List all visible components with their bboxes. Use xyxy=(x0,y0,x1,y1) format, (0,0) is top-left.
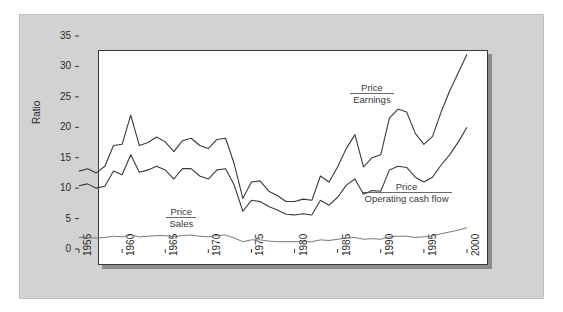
series-label-price-sales: Price Sales xyxy=(166,206,196,229)
y-tick-label: 10 xyxy=(49,183,71,193)
x-tick-label: 1995 xyxy=(428,234,438,256)
series-label-price-earnings: Price Earnings xyxy=(350,82,394,105)
y-tick-label: 20 xyxy=(49,122,71,132)
x-tick-label: 1985 xyxy=(342,234,352,256)
figure-panel xyxy=(19,14,544,299)
x-tick-label: 1975 xyxy=(255,234,265,256)
y-tick-label: 25 xyxy=(49,92,71,102)
x-tick-label: 1965 xyxy=(169,234,179,256)
series-label-denominator: Operating cash flow xyxy=(362,192,452,204)
series-label-numerator: Price xyxy=(350,82,394,93)
x-tick-label: 1970 xyxy=(212,234,222,256)
series-label-denominator: Sales xyxy=(166,217,196,229)
series-label-numerator: Price xyxy=(166,206,196,217)
y-tick-label: 35 xyxy=(49,31,71,41)
x-tick-label: 1990 xyxy=(385,234,395,256)
series-label-denominator: Earnings xyxy=(350,93,394,105)
y-tick-label: 15 xyxy=(49,153,71,163)
x-tick-label: 2000 xyxy=(471,234,481,256)
y-tick-label: 0 xyxy=(49,244,71,254)
series-label-price-operating-cash-flow: Price Operating cash flow xyxy=(362,181,452,204)
y-tick-label: 30 xyxy=(49,61,71,71)
series-label-numerator: Price xyxy=(362,181,452,192)
y-axis-label: Ratio xyxy=(31,101,42,124)
plot-area xyxy=(98,50,488,265)
x-tick-label: 1955 xyxy=(83,234,93,256)
y-tick-label: 5 xyxy=(49,214,71,224)
x-tick-label: 1980 xyxy=(299,234,309,256)
x-tick-label: 1960 xyxy=(126,234,136,256)
